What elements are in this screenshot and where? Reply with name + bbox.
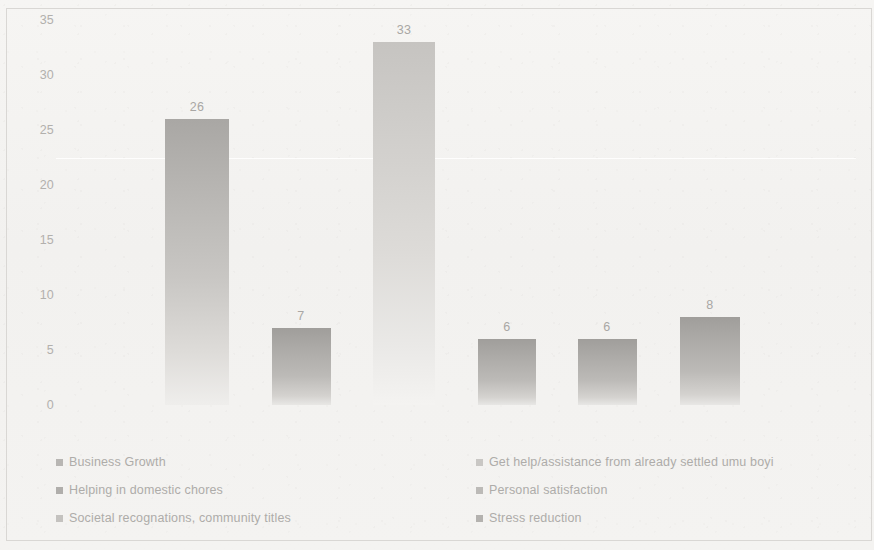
legend-item-get-help-assistance[interactable]: Get help/assistance from already settled…: [476, 455, 874, 469]
plot-area: 26 7 33 6 6 8: [56, 20, 856, 405]
y-axis: 0 5 10 15 20 25 30 35: [20, 20, 54, 405]
legend-swatch-icon: [476, 459, 483, 466]
legend-item-helping-domestic-chores[interactable]: Helping in domestic chores: [56, 483, 476, 497]
bar-societal-recognations: [578, 339, 637, 405]
legend-swatch-icon: [56, 487, 63, 494]
figure-border-left: [6, 8, 7, 540]
bar-label-helping-domestic-chores: 33: [397, 23, 412, 37]
bar-label-stress-reduction: 8: [706, 298, 713, 312]
y-tick-15: 15: [40, 233, 54, 247]
y-tick-20: 20: [40, 178, 54, 192]
bar-stress-reduction: [680, 317, 740, 405]
bar-chart-figure: 0 5 10 15 20 25 30 35 26 7 33 6 6 8 Busi…: [0, 0, 874, 550]
y-tick-30: 30: [40, 68, 54, 82]
legend-item-business-growth[interactable]: Business Growth: [56, 455, 476, 469]
figure-border-top: [6, 8, 872, 9]
bar-label-personal-satisfaction: 6: [503, 320, 510, 334]
y-tick-0: 0: [47, 398, 54, 412]
legend-swatch-icon: [476, 487, 483, 494]
legend-label: Business Growth: [69, 455, 166, 469]
legend-item-personal-satisfaction[interactable]: Personal satisfaction: [476, 483, 874, 497]
legend-label: Helping in domestic chores: [69, 483, 223, 497]
legend-item-stress-reduction[interactable]: Stress reduction: [476, 511, 874, 525]
bar-label-get-help-assistance: 7: [297, 309, 304, 323]
y-tick-35: 35: [40, 13, 54, 27]
bar-label-societal-recognations: 6: [603, 320, 610, 334]
y-tick-5: 5: [47, 343, 54, 357]
legend-swatch-icon: [56, 459, 63, 466]
bar-label-business-growth: 26: [190, 100, 205, 114]
bar-helping-domestic-chores: [373, 42, 435, 405]
bar-get-help-assistance: [272, 328, 331, 405]
legend-item-societal-recognations[interactable]: Societal recognations, community titles: [56, 511, 476, 525]
bar-business-growth: [165, 119, 229, 405]
legend-swatch-icon: [56, 515, 63, 522]
legend-label: Personal satisfaction: [489, 483, 608, 497]
chart-legend: Business Growth Get help/assistance from…: [56, 448, 856, 534]
y-tick-25: 25: [40, 123, 54, 137]
figure-border-bottom: [6, 540, 872, 541]
legend-label: Societal recognations, community titles: [69, 511, 291, 525]
legend-swatch-icon: [476, 515, 483, 522]
legend-label: Stress reduction: [489, 511, 582, 525]
bar-personal-satisfaction: [478, 339, 536, 405]
legend-label: Get help/assistance from already settled…: [489, 455, 774, 469]
y-tick-10: 10: [40, 288, 54, 302]
